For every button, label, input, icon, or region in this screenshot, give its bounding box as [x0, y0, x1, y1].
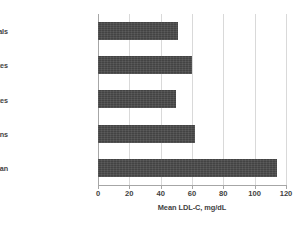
bar-chart: 020406080100120 Wild MammalsWild Primate…: [0, 0, 299, 225]
bar-row: [98, 48, 286, 82]
bar-row: [98, 14, 286, 48]
gridline-120: [286, 14, 287, 185]
bar-row: [98, 151, 286, 185]
category-label: Neonates: [0, 95, 8, 104]
bar: [98, 22, 178, 40]
category-label: Adult American: [0, 163, 8, 172]
bar: [98, 90, 176, 108]
bar: [98, 56, 192, 74]
bar: [98, 125, 195, 143]
x-axis-title: Mean LDL-C, mg/dL: [98, 203, 286, 212]
bar: [98, 159, 277, 177]
bar-row: [98, 117, 286, 151]
bar-row: [98, 82, 286, 116]
plot-area: [98, 14, 286, 185]
category-label: Hunter-Gatherer Humans: [0, 129, 8, 138]
category-label: Wild Primates: [0, 61, 8, 70]
category-label: Wild Mammals: [0, 27, 8, 36]
x-tick-label: 120: [266, 189, 299, 198]
